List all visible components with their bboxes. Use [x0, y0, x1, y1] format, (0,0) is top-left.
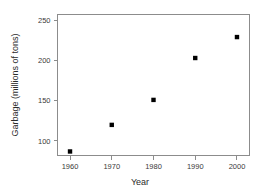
- scatter-chart: 100150200250 19601970198019902000 Year G…: [0, 0, 261, 196]
- data-point: [110, 123, 114, 127]
- y-tick-label: 250: [38, 16, 51, 25]
- y-axis-ticks: [54, 20, 58, 141]
- x-axis-title: Year: [131, 177, 149, 187]
- data-point-group: [68, 35, 239, 154]
- plot-area: 100150200250 19601970198019902000 Year G…: [0, 0, 261, 196]
- data-point: [151, 98, 155, 102]
- plot-frame: [58, 15, 250, 156]
- x-tick-label: 2000: [229, 162, 246, 171]
- x-axis-tick-labels: 19601970198019902000: [62, 162, 246, 171]
- data-point: [193, 56, 197, 60]
- y-tick-label: 100: [38, 137, 51, 146]
- y-tick-label: 200: [38, 56, 51, 65]
- data-point: [68, 149, 72, 153]
- x-tick-label: 1960: [62, 162, 79, 171]
- x-tick-label: 1970: [103, 162, 120, 171]
- x-tick-label: 1980: [145, 162, 162, 171]
- data-point: [235, 35, 239, 39]
- y-tick-label: 150: [38, 96, 51, 105]
- y-axis-tick-labels: 100150200250: [38, 16, 51, 146]
- x-tick-label: 1990: [187, 162, 204, 171]
- x-axis-ticks: [70, 156, 237, 160]
- y-axis-title: Garbage (millions of tons): [10, 33, 20, 136]
